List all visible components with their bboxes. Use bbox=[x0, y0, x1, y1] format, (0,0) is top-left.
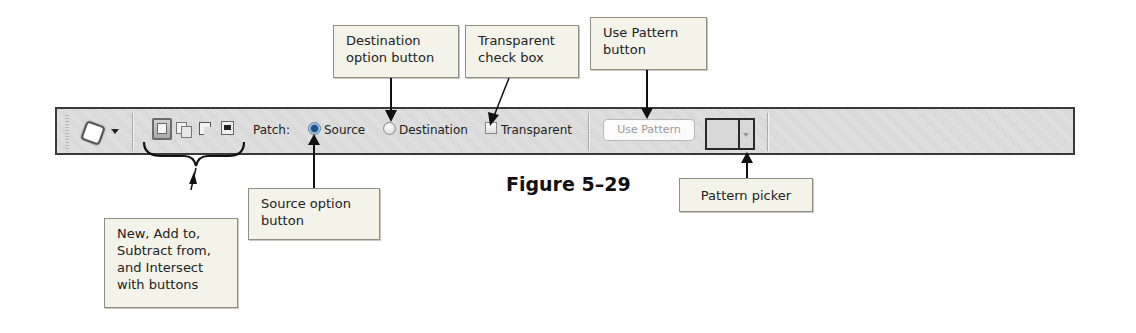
toolbar-separator bbox=[132, 113, 133, 151]
pattern-picker[interactable] bbox=[705, 118, 755, 150]
new-selection-icon bbox=[157, 123, 167, 134]
callout-destination: Destination option button bbox=[333, 25, 459, 78]
source-label[interactable]: Source bbox=[324, 123, 365, 137]
figure-label: Figure 5–29 bbox=[506, 173, 631, 195]
arrow-head-icon bbox=[740, 152, 754, 166]
patch-tool-icon[interactable] bbox=[80, 120, 106, 146]
chevron-down-icon[interactable] bbox=[743, 133, 749, 137]
callout-source: Source option button bbox=[248, 188, 380, 240]
subtract-from-selection-button[interactable] bbox=[198, 119, 216, 139]
brace-connector bbox=[140, 140, 250, 190]
patch-label: Patch: bbox=[253, 123, 290, 137]
pattern-picker-divider bbox=[738, 120, 740, 148]
intersect-with-selection-button[interactable] bbox=[220, 119, 238, 139]
toolbar-separator bbox=[588, 113, 589, 151]
callout-mode-buttons: New, Add to, Subtract from, and Intersec… bbox=[104, 218, 238, 308]
arrow-head-icon bbox=[307, 134, 321, 148]
callout-use-pattern: Use Pattern button bbox=[590, 17, 707, 70]
arrow-head-icon bbox=[640, 108, 654, 122]
toolbar-grip[interactable] bbox=[65, 115, 69, 149]
destination-label[interactable]: Destination bbox=[399, 123, 468, 137]
arrow-head-icon bbox=[384, 110, 398, 126]
add-to-selection-button[interactable] bbox=[176, 119, 194, 139]
tool-preset-dropdown-caret-icon[interactable] bbox=[111, 129, 119, 134]
new-selection-button[interactable] bbox=[152, 118, 172, 140]
callout-transparent: Transparent check box bbox=[465, 25, 579, 78]
use-pattern-button[interactable]: Use Pattern bbox=[603, 119, 695, 141]
toolbar-separator bbox=[767, 113, 768, 151]
callout-arrow bbox=[485, 76, 515, 128]
callout-line bbox=[390, 78, 392, 114]
callout-pattern-picker: Pattern picker bbox=[679, 178, 813, 212]
